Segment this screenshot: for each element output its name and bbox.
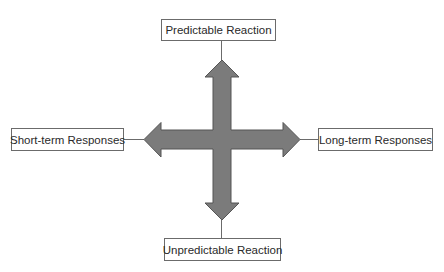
label-text: Short-term Responses: [10, 134, 125, 146]
four-way-arrow-diagram: Predictable Reaction Unpredictable React…: [0, 0, 444, 272]
label-short-term-responses: Short-term Responses: [11, 128, 124, 151]
label-predictable-reaction: Predictable Reaction: [161, 19, 276, 41]
label-text: Predictable Reaction: [165, 24, 271, 36]
label-long-term-responses: Long-term Responses: [318, 128, 433, 151]
label-text: Unpredictable Reaction: [163, 244, 283, 256]
label-text: Long-term Responses: [319, 134, 432, 146]
four-way-arrow-icon: [144, 60, 300, 220]
label-unpredictable-reaction: Unpredictable Reaction: [164, 238, 281, 261]
